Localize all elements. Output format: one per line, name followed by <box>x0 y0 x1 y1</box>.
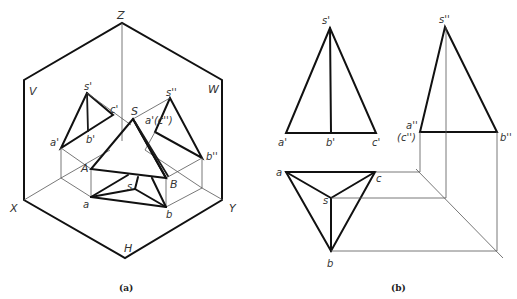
label-side-s: s'' <box>439 14 450 25</box>
miter-line-45 <box>416 169 503 258</box>
label-w: W <box>208 83 220 96</box>
label-a-prime-c-dprime: a'(c'') <box>145 115 173 126</box>
h-edge-ab <box>91 197 166 207</box>
label-front-s: s' <box>322 15 330 26</box>
label-front-c: c' <box>372 137 380 148</box>
label-top-a: a <box>276 167 282 178</box>
label-side-b: b'' <box>500 132 512 143</box>
label-c-prime: c' <box>110 104 118 115</box>
pyramid-face-front <box>91 119 166 178</box>
caption-b: (b) <box>391 283 406 293</box>
v-projection-sc-ext <box>87 93 131 125</box>
front-view <box>286 28 376 133</box>
label-B: B <box>170 178 178 191</box>
label-front-a: a' <box>278 137 287 148</box>
label-top-s: s <box>323 195 328 206</box>
construction-lines <box>331 132 503 258</box>
label-x: X <box>9 202 18 215</box>
pyramid-edge-sc <box>135 122 168 176</box>
label-s-prime: s' <box>84 81 92 92</box>
label-y: Y <box>229 202 237 215</box>
front-view-sb <box>330 28 331 133</box>
w-projection-triangle <box>155 98 202 158</box>
side-view-triangle <box>420 27 497 132</box>
side-view <box>420 27 497 198</box>
label-A: A <box>80 162 89 175</box>
label-side-c: (c'') <box>397 132 416 143</box>
panel-b-orthographic: s' a' b' c' s'' a'' (c'') b'' a c s b (b… <box>276 14 512 293</box>
label-s: s <box>127 181 132 192</box>
label-front-b: b' <box>326 137 335 148</box>
label-s-dprime: s'' <box>166 87 177 98</box>
label-top-b: b <box>327 258 333 269</box>
label-b-prime: b' <box>86 134 95 145</box>
label-h: H <box>124 242 132 255</box>
label-side-a: a'' <box>406 120 418 131</box>
axis-ox <box>24 178 61 200</box>
proj-line <box>61 178 91 197</box>
top-view <box>286 172 375 251</box>
label-top-c: c <box>376 173 382 184</box>
axis-oy <box>202 188 223 200</box>
projection-diagram: Z V W X Y H s' a' b' c' s'' a'(c'') b'' … <box>0 0 517 299</box>
label-a-prime: a' <box>50 137 59 148</box>
label-b-dprime: b'' <box>206 151 218 162</box>
label-S: S <box>131 105 138 118</box>
label-z: Z <box>116 9 125 22</box>
v-projection-sb <box>87 93 88 131</box>
caption-a: (a) <box>119 283 133 293</box>
label-a: a <box>83 199 89 210</box>
label-b: b <box>166 209 172 220</box>
panel-a-isometric: Z V W X Y H s' a' b' c' s'' a'(c'') b'' … <box>9 9 237 293</box>
h-edge-sc <box>135 177 138 189</box>
label-v: V <box>29 85 38 98</box>
